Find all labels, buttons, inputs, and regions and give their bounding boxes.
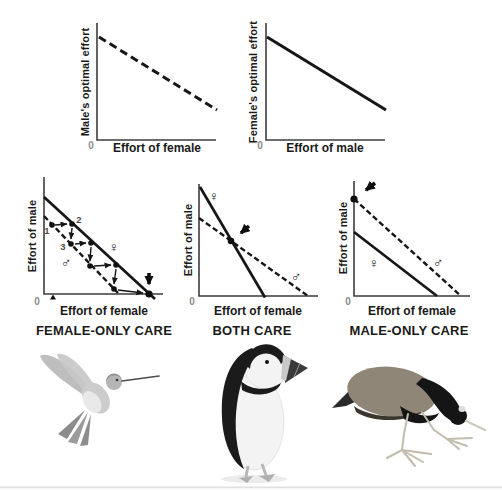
axis-label-effort-of-male: Effort of male xyxy=(286,141,363,155)
female-symbol: ♀ xyxy=(369,255,380,271)
male-symbol: ♂ xyxy=(433,254,444,270)
parental-care-figure: Male's optimal effort Effort of female 0… xyxy=(0,0,502,490)
axis-label-effort-of-male: Effort of male xyxy=(26,200,38,272)
axis-label-effort-of-female: Effort of female xyxy=(60,304,148,318)
female-symbol: ♀ xyxy=(109,239,120,255)
step-label-3: 3 xyxy=(60,241,65,252)
equilibrium-dot xyxy=(350,195,357,202)
caption-female-only-care: FEMALE-ONLY CARE xyxy=(36,323,172,338)
axis-label-male-optimal-effort: Male's optimal effort xyxy=(79,28,91,137)
bottom-edge-line xyxy=(0,487,502,489)
equilibrium-arrow xyxy=(241,226,249,233)
male-symbol: ♂ xyxy=(291,268,302,284)
male-symbol: ♂ xyxy=(61,254,72,270)
origin-zero: 0 xyxy=(189,296,195,307)
male-only-care-graph xyxy=(350,181,470,296)
equilibrium-dot xyxy=(145,290,152,297)
male-optimal-effort-graph xyxy=(97,23,217,140)
axes xyxy=(266,23,385,140)
axis-label-effort-of-female: Effort of female xyxy=(113,141,201,155)
equilibrium-dot xyxy=(228,238,235,245)
axis-label-female-optimal-effort: Female's optimal effort xyxy=(247,21,259,143)
origin-zero: 0 xyxy=(345,296,351,307)
axes xyxy=(97,23,216,140)
male-response-line-dashed xyxy=(99,37,217,110)
axis-label-effort-of-male: Effort of male xyxy=(182,204,194,276)
female-response-line-solid xyxy=(267,37,386,110)
female-only-care-graph xyxy=(44,177,163,300)
caption-both-care: BOTH CARE xyxy=(212,323,291,338)
axis-triangle-marker xyxy=(50,295,56,300)
origin-zero: 0 xyxy=(88,140,94,151)
axis-label-effort-of-female: Effort of female xyxy=(214,304,302,318)
male-line-dashed xyxy=(354,199,461,296)
axes xyxy=(354,181,470,296)
axis-label-effort-of-male: Effort of male xyxy=(337,202,349,274)
male-line-dashed xyxy=(199,218,308,296)
step-label-2: 2 xyxy=(76,214,81,225)
axis-label-effort-of-female: Effort of female xyxy=(368,304,456,318)
caption-male-only-care: MALE-ONLY CARE xyxy=(349,323,468,338)
puffin-image xyxy=(221,344,308,483)
equilibrium-arrow xyxy=(366,183,375,190)
female-symbol: ♀ xyxy=(209,188,220,204)
origin-zero: 0 xyxy=(34,296,40,307)
hummingbird-image xyxy=(40,354,159,446)
origin-zero: 0 xyxy=(257,140,263,151)
female-optimal-effort-graph xyxy=(266,23,386,140)
jacana-image xyxy=(332,362,485,466)
step-label-1: 1 xyxy=(44,225,49,236)
